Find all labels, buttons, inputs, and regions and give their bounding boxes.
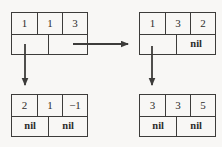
pointer-row (12, 34, 87, 55)
key-cell: 3 (62, 13, 87, 34)
key-row: 1 3 2 (140, 13, 215, 34)
pointer-row: nil nil (140, 116, 215, 137)
key-cell: 3 (165, 13, 190, 34)
pointer-row: nil (140, 34, 215, 55)
key-cell: 2 (12, 95, 37, 116)
pointer-cell (12, 35, 48, 55)
pointer-cell: nil (48, 117, 87, 137)
pointer-cell (140, 35, 176, 55)
pointer-cell: nil (12, 117, 48, 137)
key-cell: 5 (190, 95, 215, 116)
key-row: 3 3 5 (140, 95, 215, 116)
key-cell: 1 (37, 95, 62, 116)
key-cell: 3 (165, 95, 190, 116)
key-cell: −1 (62, 95, 87, 116)
key-cell: 3 (140, 95, 165, 116)
key-cell: 1 (37, 13, 62, 34)
key-cell: 1 (140, 13, 165, 34)
pointer-cell: nil (176, 117, 215, 137)
pointer-cell: nil (176, 35, 215, 55)
list-node-bottom-right: 3 3 5 nil nil (139, 94, 216, 137)
pointer-cell (48, 35, 87, 55)
pointer-row: nil nil (12, 116, 87, 137)
list-node-top-right: 1 3 2 nil (139, 12, 216, 55)
key-cell: 1 (12, 13, 37, 34)
key-row: 1 1 3 (12, 13, 87, 34)
pointer-cell: nil (140, 117, 176, 137)
key-row: 2 1 −1 (12, 95, 87, 116)
diagram-canvas: 1 1 3 1 3 2 nil 2 1 −1 nil nil (0, 0, 222, 147)
list-node-bottom-left: 2 1 −1 nil nil (11, 94, 88, 137)
list-node-top-left: 1 1 3 (11, 12, 88, 55)
key-cell: 2 (190, 13, 215, 34)
